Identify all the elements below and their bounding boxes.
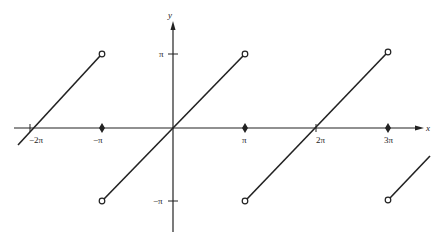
x-axis-label: x [425,123,430,133]
y-tick-label-pi: π [159,49,164,59]
x-tick-label-pi: π [242,135,247,145]
x-tick-label-3pi: 3π [384,135,394,145]
x-axis-arrow-icon [415,126,424,131]
segment-1 [18,56,100,145]
sawtooth-plot: x y −2π −π π 2π 3π π −π [0,0,444,242]
open-endpoint-icon [385,197,391,203]
y-tick-label-minus-pi: −π [153,196,163,206]
x-tick-minus-pi-diamond-icon [99,123,105,133]
x-tick-pi-diamond-icon [242,123,248,133]
segment-4 [390,156,430,198]
y-axis-arrow-icon [171,21,176,30]
open-endpoint-icon [242,198,248,204]
open-endpoint-icon [385,49,391,55]
x-tick-label-minus-pi: −π [93,135,103,145]
segment-3 [247,54,386,199]
y-axis-label: y [167,10,172,20]
x-tick-label-2pi: 2π [316,135,326,145]
x-tick-3pi-diamond-icon [385,123,391,133]
open-endpoint-icon [99,51,105,57]
open-endpoint-icon [242,51,248,57]
x-tick-label-minus-2pi: −2π [29,135,44,145]
open-endpoint-icon [99,198,105,204]
